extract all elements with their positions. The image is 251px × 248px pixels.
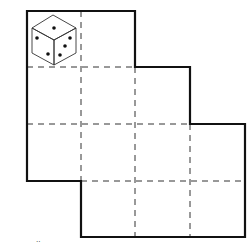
pip [68, 36, 72, 40]
pip [35, 36, 39, 40]
footer-mark: ·· [36, 238, 41, 245]
net-outline [27, 11, 245, 237]
pip [63, 44, 67, 48]
die-left-face [32, 28, 54, 65]
pip [52, 26, 56, 30]
cube-net-diagram [0, 0, 251, 248]
pip [46, 52, 50, 56]
die-icon [32, 15, 76, 65]
pip [58, 53, 62, 57]
